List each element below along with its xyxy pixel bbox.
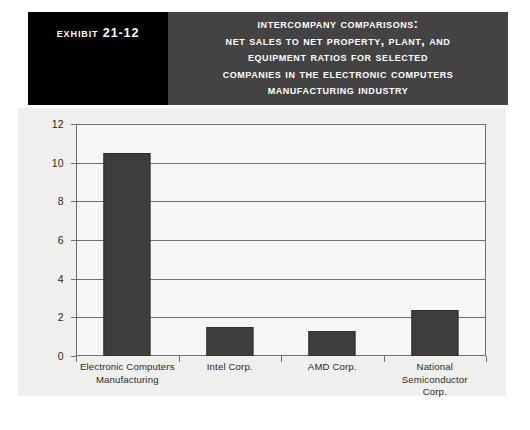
- chart-title-line-2: Net Sales to Net Property, Plant, and: [226, 33, 451, 49]
- x-axis-category-label: Intel Corp.: [179, 361, 282, 374]
- y-axis-tick-label: 8: [24, 195, 64, 207]
- y-axis-tick-label: 12: [24, 118, 64, 130]
- exhibit-header-banner: Exhibit 21-12 Intercompany Comparisons: …: [28, 12, 508, 105]
- bar[interactable]: [206, 327, 253, 356]
- x-axis-category-line: Manufacturing: [76, 374, 179, 387]
- x-axis-category-line: AMD Corp.: [281, 361, 384, 374]
- chart-title-block: Intercompany Comparisons: Net Sales to N…: [168, 12, 508, 105]
- exhibit-number-block: Exhibit 21-12: [28, 12, 168, 105]
- chart-title-line-3: Equipment Ratios for Selected: [248, 49, 428, 65]
- exhibit-label: Exhibit 21-12: [57, 26, 140, 40]
- x-axis-category-line: Intel Corp.: [179, 361, 282, 374]
- x-axis-category-label: National SemiconductorCorp.: [384, 361, 487, 399]
- y-axis-tick-label: 10: [24, 157, 64, 169]
- bar[interactable]: [309, 331, 356, 356]
- x-axis-category-line: National Semiconductor: [384, 361, 487, 386]
- y-axis-tick-label: 4: [24, 273, 64, 285]
- bar[interactable]: [104, 153, 151, 356]
- x-axis-category-line: Corp.: [384, 386, 487, 399]
- chart-title-line-4: Companies in the Electronic Computers: [223, 66, 454, 82]
- x-axis-category-label: AMD Corp.: [281, 361, 384, 374]
- x-axis-tick: [486, 356, 487, 362]
- bar-slot: [281, 124, 384, 356]
- chart-title-line-1: Intercompany Comparisons:: [258, 16, 419, 32]
- bars-layer: [76, 124, 486, 356]
- bar-slot: [76, 124, 179, 356]
- bar-slot: [384, 124, 487, 356]
- x-axis-category-line: Electronic Computers: [76, 361, 179, 374]
- chart-title-line-5: Manufacturing Industry: [268, 82, 409, 98]
- bar[interactable]: [411, 310, 458, 356]
- y-axis-tick-label: 0: [24, 350, 64, 362]
- chart-panel: 024681012 Electronic ComputersManufactur…: [18, 108, 506, 396]
- y-axis-tick-label: 2: [24, 311, 64, 323]
- x-axis-category-label: Electronic ComputersManufacturing: [76, 361, 179, 386]
- bar-slot: [179, 124, 282, 356]
- y-axis-tick-label: 6: [24, 234, 64, 246]
